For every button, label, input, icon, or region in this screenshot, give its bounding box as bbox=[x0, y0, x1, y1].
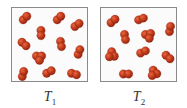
molecule bbox=[18, 38, 30, 50]
molecule bbox=[107, 15, 119, 27]
molecule bbox=[120, 30, 129, 44]
molecules-t1 bbox=[12, 8, 89, 83]
molecule bbox=[119, 70, 133, 78]
molecule bbox=[56, 37, 65, 51]
label-t1: T1 bbox=[11, 89, 89, 107]
molecules-t2 bbox=[101, 8, 178, 83]
label-t2: T2 bbox=[100, 89, 178, 107]
label-t2-main: T bbox=[133, 89, 141, 104]
label-t1-main: T bbox=[44, 89, 52, 104]
molecule bbox=[43, 67, 56, 78]
molecule bbox=[105, 48, 118, 61]
container-t1 bbox=[11, 7, 88, 82]
molecule bbox=[18, 67, 28, 80]
molecule bbox=[148, 66, 161, 80]
molecule bbox=[37, 26, 45, 40]
molecule bbox=[53, 12, 65, 24]
molecule bbox=[141, 29, 155, 42]
molecule bbox=[71, 19, 84, 30]
container-t2 bbox=[100, 7, 177, 82]
molecule bbox=[67, 69, 80, 79]
label-t2-sub: 2 bbox=[141, 97, 146, 107]
molecule bbox=[136, 47, 149, 58]
molecule bbox=[32, 52, 46, 65]
molecule bbox=[134, 14, 147, 24]
molecule bbox=[74, 45, 84, 58]
molecule bbox=[165, 22, 174, 36]
label-t1-sub: 1 bbox=[52, 97, 57, 107]
molecule bbox=[19, 12, 31, 24]
molecule bbox=[162, 51, 174, 63]
